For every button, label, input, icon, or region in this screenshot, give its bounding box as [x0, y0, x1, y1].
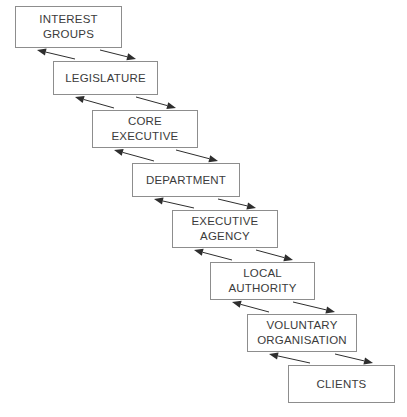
node-label-clients: CLIENTS: [317, 377, 367, 392]
node-local-authority: LOCAL AUTHORITY: [210, 262, 315, 300]
node-legislature: LEGISLATURE: [53, 61, 158, 95]
arrow-department-to-core-executive: [114, 149, 154, 161]
arrow-core-executive-to-legislature: [75, 96, 114, 108]
node-label-interest-groups: INTEREST GROUPS: [39, 12, 97, 42]
arrow-voluntary-organisation-to-local-authority: [232, 301, 269, 312]
arrow-interest-groups-to-legislature: [100, 50, 136, 60]
node-label-voluntary-organisation: VOLUNTARY ORGANISATION: [257, 318, 347, 348]
arrow-executive-agency-to-department: [154, 197, 194, 208]
node-executive-agency: EXECUTIVE AGENCY: [172, 210, 278, 248]
arrow-legislature-to-core-executive: [136, 97, 176, 109]
node-department: DEPARTMENT: [132, 163, 240, 197]
node-label-local-authority: LOCAL AUTHORITY: [228, 266, 296, 296]
node-label-core-executive: CORE EXECUTIVE: [112, 114, 179, 144]
node-voluntary-organisation: VOLUNTARY ORGANISATION: [247, 314, 357, 352]
arrow-clients-to-voluntary-organisation: [269, 352, 310, 363]
node-interest-groups: INTEREST GROUPS: [15, 6, 122, 48]
node-label-legislature: LEGISLATURE: [65, 71, 146, 86]
node-clients: CLIENTS: [288, 365, 395, 403]
node-label-department: DEPARTMENT: [146, 173, 226, 188]
arrow-core-executive-to-department: [176, 150, 218, 162]
arrow-local-authority-to-executive-agency: [194, 249, 232, 260]
arrow-voluntary-organisation-to-clients: [335, 354, 373, 364]
arrow-local-authority-to-voluntary-organisation: [293, 302, 335, 313]
policy-chain-diagram: INTEREST GROUPSLEGISLATURECORE EXECUTIVE…: [0, 0, 407, 417]
node-core-executive: CORE EXECUTIVE: [92, 110, 198, 148]
arrow-executive-agency-to-local-authority: [256, 250, 293, 261]
arrow-department-to-executive-agency: [218, 199, 256, 209]
node-label-executive-agency: EXECUTIVE AGENCY: [192, 214, 259, 244]
arrow-legislature-to-interest-groups: [37, 49, 75, 59]
